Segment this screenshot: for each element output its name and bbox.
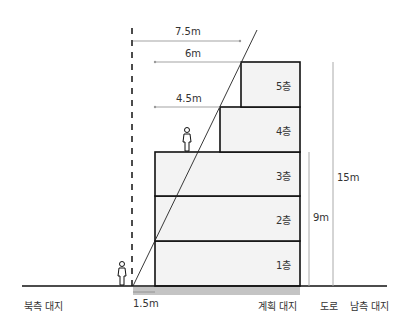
person-icon-ground [118,262,126,286]
road-label: 도로 [320,298,338,313]
dim-6m-label: 6m [185,48,201,59]
south-site-label: 남측 대지 [350,298,389,313]
dim-9m-label: 9m [313,212,329,223]
planned-site-label: 계획 대지 [258,298,297,313]
north-site-label: 북측 대지 [24,298,63,313]
dim-7-5m-label: 7.5m [175,26,201,37]
dim-1-5m-label: 1.5m [133,298,159,309]
person-icon-rooftop [183,128,191,152]
floor-2-label: 2층 [276,212,291,227]
floor-5-label: 5층 [276,78,291,93]
floor-1-label: 1층 [276,257,291,272]
dim-4-5m-label: 4.5m [176,93,202,104]
section-drawing [0,0,412,328]
floor-4-label: 4층 [276,123,291,138]
floor-3-label: 3층 [276,168,291,183]
planned-site-band [133,287,300,295]
dim-15m-label: 15m [337,172,359,183]
height-dimension-lines [309,62,333,286]
